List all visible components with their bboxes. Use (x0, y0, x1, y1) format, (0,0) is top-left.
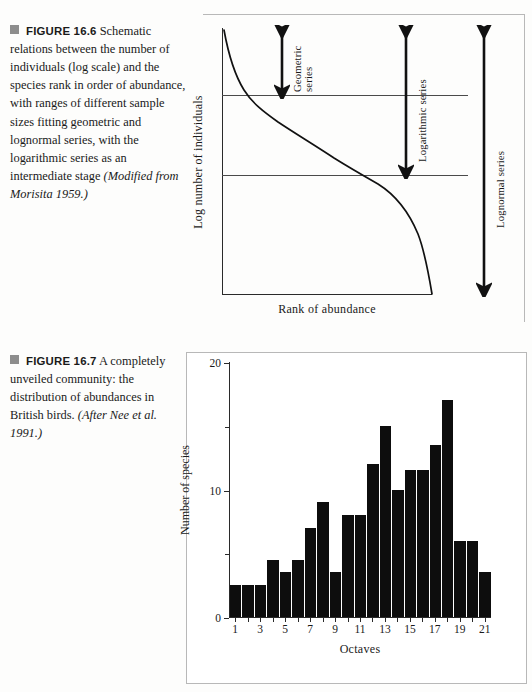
x-tick-14 (397, 618, 398, 622)
x-tick-16 (422, 618, 423, 622)
x-tick-18 (447, 618, 448, 622)
x-tick-label-17: 17 (429, 623, 441, 635)
figure-16-7-label: FIGURE 16.7 (26, 355, 97, 367)
bar-octave-2 (242, 585, 253, 617)
bar-octave-21 (479, 572, 490, 617)
x-tick-label-7: 7 (307, 623, 313, 635)
figure-16-7-bar-group (230, 362, 491, 617)
bar-octave-18 (442, 400, 453, 617)
figure-16-6-caption: FIGURE 16.6 Schematic relations between … (10, 22, 188, 203)
figure-16-6-caption-body: Schematic relations between the number o… (10, 24, 185, 183)
geometric-series-arrow-icon (274, 25, 290, 99)
bar-octave-16 (417, 470, 428, 617)
bar-octave-17 (430, 445, 441, 617)
x-tick-19 (460, 618, 461, 622)
figure-page: FIGURE 16.6 Schematic relations between … (0, 0, 532, 692)
figure-16-7-plot: 01020 13579111315171921 Number of specie… (229, 362, 491, 618)
figure-16-6-label: FIGURE 16.6 (26, 25, 97, 37)
bar-octave-19 (454, 541, 465, 618)
x-tick-10 (348, 618, 349, 622)
square-bullet-icon (10, 355, 19, 364)
logarithmic-series-label: Logarithmic series (417, 79, 428, 162)
x-tick-label-13: 13 (379, 623, 391, 635)
geometric-series-label: Geometricseries (292, 45, 314, 92)
bar-octave-4 (267, 560, 278, 617)
figure-16-6-panel-top-rule (203, 14, 525, 15)
x-tick-6 (298, 618, 299, 622)
x-tick-11 (360, 618, 361, 622)
bar-octave-7 (305, 528, 316, 617)
x-tick-12 (372, 618, 373, 622)
figure-16-6-plot: Geometricseries Logarithmic series Logno… (222, 28, 432, 295)
x-tick-label-5: 5 (282, 623, 288, 635)
figure-16-6-panel-right-rule (524, 14, 525, 322)
x-tick-label-15: 15 (404, 623, 416, 635)
lognormal-series-label: Lognormal series (495, 151, 506, 228)
bar-octave-13 (380, 426, 391, 617)
x-tick-21 (485, 618, 486, 622)
figure-16-7-x-axis-label: Octaves (340, 642, 381, 657)
square-bullet-icon (10, 25, 19, 34)
bar-octave-1 (230, 585, 241, 617)
x-tick-label-1: 1 (232, 623, 238, 635)
x-tick-label-9: 9 (332, 623, 338, 635)
figure-16-7-caption: FIGURE 16.7 A completely unveiled commun… (10, 352, 188, 443)
x-tick-label-21: 21 (479, 623, 491, 635)
y-tick-label-20: 20 (210, 357, 222, 369)
bar-octave-5 (280, 572, 291, 617)
y-major-tick-20 (224, 363, 229, 364)
y-minor-tick-15 (225, 427, 229, 428)
x-tick-label-11: 11 (354, 623, 365, 635)
x-tick-4 (273, 618, 274, 622)
figure-16-6-x-axis-label: Rank of abundance (278, 302, 376, 317)
x-tick-3 (260, 618, 261, 622)
bar-octave-8 (317, 502, 328, 617)
x-tick-15 (410, 618, 411, 622)
y-tick-label-0: 0 (215, 612, 221, 624)
x-tick-2 (248, 618, 249, 622)
bar-octave-10 (342, 515, 353, 617)
bar-octave-12 (367, 464, 378, 617)
x-tick-9 (335, 618, 336, 622)
bar-octave-11 (355, 515, 366, 617)
x-tick-20 (472, 618, 473, 622)
y-major-tick-10 (224, 491, 229, 492)
x-tick-label-19: 19 (454, 623, 466, 635)
bar-octave-3 (255, 585, 266, 617)
x-tick-7 (310, 618, 311, 622)
x-tick-5 (285, 618, 286, 622)
bar-octave-20 (467, 541, 478, 618)
bar-octave-14 (392, 490, 403, 618)
figure-16-6-y-axis-label: Log number of individuals (191, 95, 206, 228)
figure-16-7-y-axis-label: Number of species (178, 445, 193, 535)
x-tick-13 (385, 618, 386, 622)
x-tick-8 (323, 618, 324, 622)
lognormal-series-arrow-icon (476, 25, 492, 297)
logarithmic-series-arrow-icon (398, 25, 414, 179)
x-tick-1 (235, 618, 236, 622)
y-tick-label-10: 10 (210, 485, 222, 497)
x-tick-17 (435, 618, 436, 622)
y-minor-tick-5 (225, 554, 229, 555)
y-major-tick-0 (224, 618, 229, 619)
bar-octave-9 (330, 572, 341, 617)
x-tick-label-3: 3 (257, 623, 263, 635)
bar-octave-6 (292, 560, 303, 617)
bar-octave-15 (405, 470, 416, 617)
